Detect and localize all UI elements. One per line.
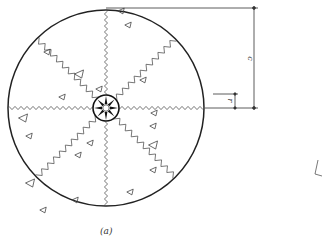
zigzag-ray	[119, 106, 203, 109]
triangle-marker	[26, 133, 32, 139]
triangle-marker	[87, 140, 93, 146]
triangle-marker	[150, 167, 156, 173]
triangle-marker	[26, 179, 35, 187]
triangle-marker	[75, 152, 81, 158]
zigzag-ray	[113, 118, 173, 178]
zigzag-ray	[9, 106, 93, 109]
zigzag-ray	[104, 121, 107, 205]
triangle-marker	[72, 197, 78, 203]
central-hub	[93, 95, 119, 121]
hub-center	[103, 105, 109, 111]
partial-shape-edge	[315, 160, 322, 176]
triangle-marker	[19, 114, 28, 122]
triangle-marker	[127, 189, 133, 195]
triangle-marker	[96, 86, 102, 92]
triangle-marker	[150, 123, 156, 129]
zigzag-ray	[36, 115, 96, 175]
triangle-marker	[59, 94, 65, 100]
dimension-label-r: r	[226, 99, 235, 103]
triangle-marker	[75, 70, 84, 78]
triangle-marker	[140, 77, 146, 83]
zigzag-ray	[104, 11, 107, 95]
triangle-marker	[125, 22, 131, 28]
triangle-marker	[40, 207, 46, 213]
dimension-label-c: c	[246, 56, 255, 60]
zigzag-ray	[116, 41, 176, 101]
figure-caption: (a)	[100, 226, 112, 236]
zigzag-ray	[39, 38, 99, 98]
triangle-marker	[151, 110, 157, 116]
diagram-canvas	[0, 0, 322, 242]
